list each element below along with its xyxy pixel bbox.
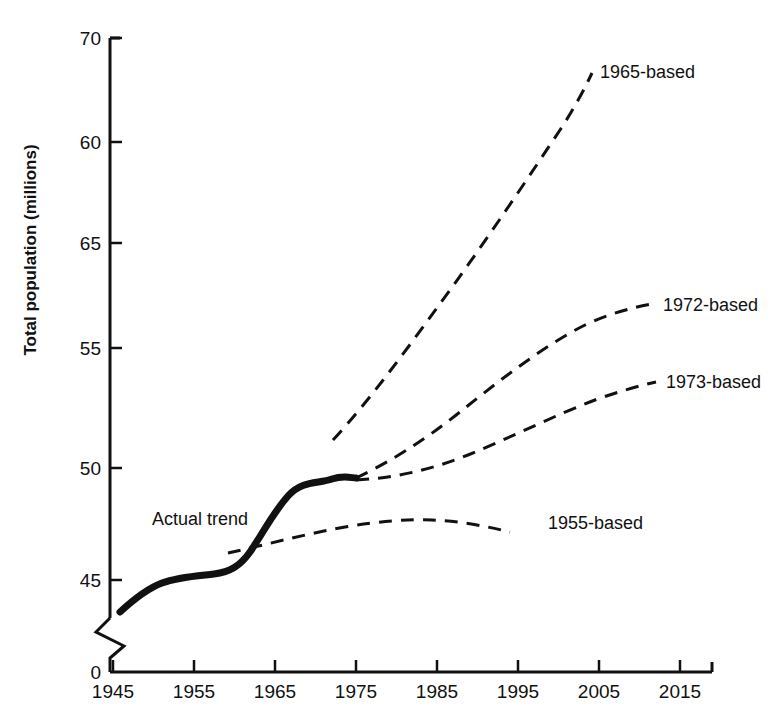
population-projection-chart: 70 60 65 55 50 45 0 1945 1955 1965 1975 …: [0, 0, 773, 708]
x-tick-label-4: 1985: [416, 681, 458, 702]
series-label-1955-based: 1955-based: [548, 513, 643, 533]
x-tick-label-6: 2005: [578, 681, 620, 702]
annotation-actual-trend: Actual trend: [152, 509, 248, 529]
series-line-1973-based: [356, 382, 656, 480]
x-tick-label-3: 1975: [335, 681, 377, 702]
chart-canvas: 70 60 65 55 50 45 0 1945 1955 1965 1975 …: [0, 0, 773, 708]
y-tick-label-2: 65: [80, 233, 101, 254]
y-tick-label-5: 45: [80, 570, 101, 591]
y-axis-ticks: [110, 38, 122, 580]
y-tick-label-4: 50: [80, 458, 101, 479]
y-tick-label-1: 60: [80, 132, 101, 153]
y-tick-label-6: 0: [90, 662, 101, 683]
series-line-actual-trend: [120, 477, 356, 612]
y-axis-title: Total population (millions): [21, 144, 40, 355]
x-tick-label-0: 1945: [92, 681, 134, 702]
y-tick-label-3: 55: [80, 338, 101, 359]
x-axis-ticks: [113, 660, 680, 672]
series-line-1972-based: [356, 304, 652, 478]
x-tick-label-7: 2015: [659, 681, 701, 702]
series-label-1965-based: 1965-based: [600, 62, 695, 82]
x-tick-label-2: 1965: [254, 681, 296, 702]
x-tick-label-5: 1995: [497, 681, 539, 702]
series-label-1973-based: 1973-based: [666, 372, 761, 392]
y-tick-label-0: 70: [80, 28, 101, 49]
x-tick-label-1: 1955: [173, 681, 215, 702]
series-line-1965-based: [333, 73, 592, 440]
series-label-1972-based: 1972-based: [663, 295, 758, 315]
